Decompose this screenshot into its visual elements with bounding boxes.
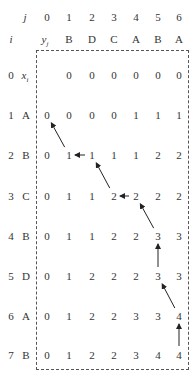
traceback-arrows xyxy=(0,0,196,381)
arrow-up-left xyxy=(96,163,109,188)
arrow-up-left xyxy=(162,284,175,308)
arrow-up-left xyxy=(140,204,153,228)
arrow-up-left xyxy=(51,123,64,147)
